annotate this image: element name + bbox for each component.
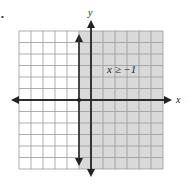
inequality-graph: • y x x ≥ −1 <box>0 0 188 195</box>
x-axis-label: x <box>176 95 180 105</box>
boundary-point <box>77 98 81 102</box>
inequality-label: x ≥ −1 <box>107 64 136 75</box>
coordinate-plane <box>0 0 188 195</box>
y-axis-label: y <box>88 8 92 18</box>
